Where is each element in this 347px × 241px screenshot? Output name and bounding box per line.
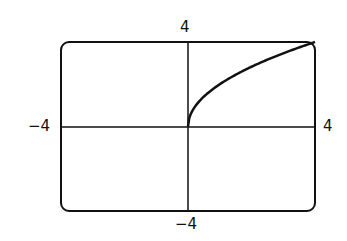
x-max-label: 4 — [323, 119, 333, 134]
graph-window — [0, 0, 347, 241]
y-min-label: −4 — [175, 217, 197, 232]
x-min-label: −4 — [28, 119, 50, 134]
y-max-label: 4 — [180, 20, 190, 35]
function-curve — [188, 42, 315, 127]
